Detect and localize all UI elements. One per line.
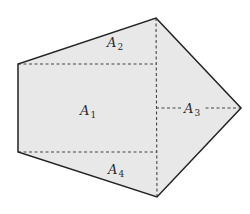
- pentagon-diagram: A1 A2 A3 A4: [0, 0, 250, 214]
